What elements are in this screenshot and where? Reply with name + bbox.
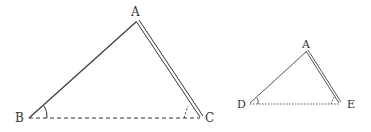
side-ae-inner — [308, 50, 341, 102]
angle-d-arc — [257, 98, 258, 104]
label-a-left: A — [130, 5, 140, 19]
label-c: C — [205, 111, 214, 125]
label-d: D — [237, 98, 246, 111]
triangle-abc — [29, 20, 203, 118]
triangle-ade — [250, 50, 341, 104]
side-ac-inner — [139, 20, 203, 116]
side-ab — [29, 22, 136, 118]
similar-triangles-diagram: A B C A D E — [0, 0, 371, 132]
side-ad — [250, 51, 307, 103]
side-ae-outer — [306, 51, 339, 103]
label-e: E — [347, 98, 355, 111]
label-a-right: A — [301, 38, 311, 51]
angle-c-arc — [184, 106, 188, 118]
angle-e-arc — [331, 97, 334, 104]
side-ac-outer — [136, 21, 200, 117]
angle-b-arc — [44, 106, 47, 118]
label-b: B — [15, 111, 24, 125]
